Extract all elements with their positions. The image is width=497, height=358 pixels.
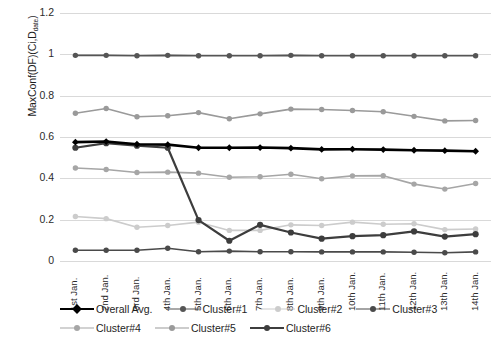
legend-row: Overall Avg.Cluster#1Cluster#2Cluster#3 — [60, 300, 480, 317]
legend-row: Cluster#4Cluster#5Cluster#6 — [60, 319, 480, 336]
data-point — [381, 109, 386, 114]
legend-marker — [169, 325, 175, 331]
legend-swatch-icon — [261, 303, 295, 315]
legend-item-cluster-1[interactable]: Cluster#1 — [166, 303, 247, 315]
data-point — [257, 228, 262, 233]
data-point — [350, 249, 355, 254]
y-axis-tick: 1.2 — [8, 6, 54, 18]
data-point — [319, 107, 324, 112]
data-point — [73, 248, 78, 253]
data-point — [257, 249, 262, 254]
legend-item-cluster-4[interactable]: Cluster#4 — [60, 322, 141, 334]
data-point — [134, 170, 139, 175]
data-point — [134, 225, 139, 230]
data-point — [134, 114, 139, 119]
data-point — [318, 146, 325, 153]
data-point — [319, 176, 324, 181]
y-axis-tick: 0.8 — [8, 89, 54, 101]
legend-marker — [370, 306, 376, 312]
data-point — [73, 214, 78, 219]
data-point — [165, 245, 170, 250]
data-point — [73, 111, 78, 116]
data-point — [442, 250, 447, 255]
legend-marker — [72, 304, 82, 314]
data-point — [288, 106, 293, 111]
y-axis-tick: 0.6 — [8, 130, 54, 142]
data-point — [73, 165, 78, 170]
series-cluster-5 — [73, 106, 479, 124]
legend-swatch-icon — [155, 322, 189, 334]
data-point — [103, 106, 108, 111]
y-axis-label-main: MaxConf(DF)(Ci,D — [26, 31, 38, 116]
data-point — [288, 229, 294, 235]
series-cluster-3 — [73, 245, 479, 255]
legend-swatch-icon — [166, 303, 200, 315]
data-point — [287, 145, 294, 152]
legend-label: Cluster#1 — [202, 303, 247, 315]
data-point — [257, 144, 264, 151]
legend-item-overall-avg[interactable]: Overall Avg. — [60, 303, 152, 315]
data-point — [227, 175, 232, 180]
chart-legend: Overall Avg.Cluster#1Cluster#2Cluster#3C… — [60, 300, 480, 338]
data-point — [472, 148, 479, 155]
data-point — [257, 111, 262, 116]
data-point — [72, 145, 78, 151]
chart-figure: MaxConf(DF)(Ci,Ddate) 00.20.40.60.811.2 … — [0, 0, 497, 358]
data-point — [350, 108, 355, 113]
data-point — [381, 249, 386, 254]
data-point — [73, 53, 78, 58]
data-point — [442, 186, 447, 191]
data-point — [381, 222, 386, 227]
legend-label: Cluster#4 — [96, 322, 141, 334]
data-point — [195, 217, 201, 223]
data-point — [442, 227, 447, 232]
legend-marker — [74, 325, 80, 331]
legend-label: Cluster#6 — [286, 322, 331, 334]
data-point — [473, 226, 478, 231]
legend-label: Cluster#2 — [297, 303, 342, 315]
data-point — [165, 53, 170, 58]
legend-item-cluster-3[interactable]: Cluster#3 — [356, 303, 437, 315]
legend-swatch-icon — [60, 322, 94, 334]
data-point — [288, 249, 293, 254]
data-point — [319, 223, 324, 228]
data-point — [411, 147, 418, 154]
data-point — [349, 233, 355, 239]
data-point — [165, 223, 170, 228]
data-point — [288, 222, 293, 227]
data-point — [288, 172, 293, 177]
data-point — [195, 144, 202, 151]
legend-item-cluster-5[interactable]: Cluster#5 — [155, 322, 236, 334]
data-point — [288, 53, 293, 58]
data-point — [227, 116, 232, 121]
data-point — [165, 169, 170, 174]
legend-marker — [264, 325, 270, 331]
data-point — [349, 146, 356, 153]
data-point — [103, 248, 108, 253]
legend-marker — [275, 306, 281, 312]
legend-item-cluster-6[interactable]: Cluster#6 — [250, 322, 331, 334]
data-point — [473, 118, 478, 123]
series-cluster-1 — [73, 53, 479, 59]
data-point — [319, 53, 324, 58]
y-axis-tick: 0.4 — [8, 171, 54, 183]
data-point — [134, 248, 139, 253]
legend-label: Cluster#5 — [191, 322, 236, 334]
data-point — [226, 144, 233, 151]
data-point — [227, 248, 232, 253]
legend-label: Cluster#3 — [392, 303, 437, 315]
data-point — [196, 110, 201, 115]
y-axis-tick: 1 — [8, 47, 54, 59]
data-point — [350, 53, 355, 58]
legend-label: Overall Avg. — [96, 303, 152, 315]
data-point — [381, 53, 386, 58]
data-point — [72, 139, 79, 146]
data-point — [350, 219, 355, 224]
data-point — [411, 53, 416, 58]
data-point — [411, 228, 417, 234]
data-point — [411, 181, 416, 186]
legend-item-cluster-2[interactable]: Cluster#2 — [261, 303, 342, 315]
data-point — [227, 53, 232, 58]
data-point — [442, 118, 447, 123]
data-point — [411, 250, 416, 255]
